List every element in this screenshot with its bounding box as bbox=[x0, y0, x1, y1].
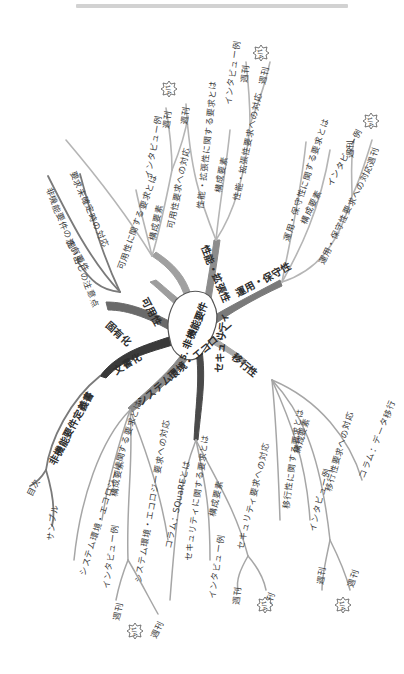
seinou-child-5[interactable]: 週刊 bbox=[240, 64, 251, 83]
badge-system: 1/4 bbox=[126, 622, 144, 640]
trunk-security bbox=[194, 350, 204, 440]
security-child-5[interactable]: 週刊 bbox=[232, 586, 243, 605]
badge-seinou: 1/4 bbox=[252, 44, 270, 62]
unyou-child-5[interactable]: 週刊 bbox=[346, 140, 356, 159]
badge-security: 1/4 bbox=[256, 596, 274, 614]
badge-unyou: 1/4 bbox=[362, 112, 380, 130]
badge-kaiyouka: 1/4 bbox=[160, 80, 178, 98]
badge-ikousei: 1/4 bbox=[334, 596, 352, 614]
